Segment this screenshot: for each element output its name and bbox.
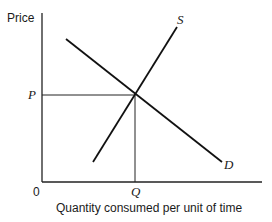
y-axis-label: Price — [7, 11, 34, 25]
origin-label: 0 — [33, 185, 40, 199]
demand-label: D — [224, 157, 233, 173]
x-axis-label: Quantity consumed per unit of time — [56, 201, 242, 215]
demand-curve — [66, 39, 222, 162]
quantity-tick-label: Q — [131, 184, 140, 200]
supply-label: S — [177, 12, 184, 28]
price-tick-label: P — [28, 87, 36, 103]
